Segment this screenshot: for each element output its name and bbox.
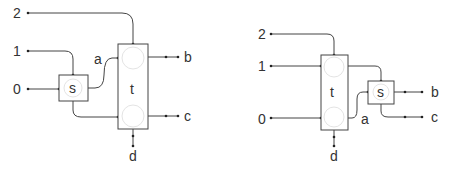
wire-s-to-c — [381, 104, 422, 117]
node-s-label: s — [69, 80, 76, 96]
port-dot — [404, 91, 407, 94]
port-dot — [404, 116, 407, 119]
input-label-1: 1 — [13, 43, 21, 59]
wire-label-a: a — [94, 51, 102, 67]
left-diagram: 2 1 0 s a t b — [13, 5, 192, 164]
output-label-b: b — [431, 84, 439, 100]
output-label-c: c — [184, 108, 191, 124]
node-t-label: t — [330, 84, 334, 100]
port-dot — [27, 50, 30, 53]
wire-t-to-s — [348, 66, 381, 81]
output-label-c: c — [431, 109, 438, 125]
port-dot — [270, 117, 273, 120]
wire-1-to-s — [28, 51, 73, 75]
port-dot — [27, 12, 30, 15]
wire-label-a: a — [361, 111, 369, 127]
wire-2-to-t — [28, 13, 133, 44]
input-label-0: 0 — [13, 81, 21, 97]
port-dot — [333, 145, 336, 148]
input-label-0: 0 — [258, 111, 266, 127]
port-dot — [270, 65, 273, 68]
wire-s-to-t-a — [88, 58, 118, 88]
input-label-2: 2 — [13, 5, 21, 21]
node-s-label: s — [377, 84, 384, 100]
port-dot — [333, 136, 336, 139]
port-dot — [132, 145, 135, 148]
right-diagram: 2 1 0 t a s b — [258, 26, 439, 164]
port-dot — [421, 116, 424, 119]
output-label-d: d — [330, 148, 338, 164]
port-dot — [177, 115, 180, 118]
diagram-canvas: 2 1 0 s a t b — [0, 0, 454, 170]
port-dot — [132, 135, 135, 138]
port-dot — [27, 88, 30, 91]
port-dot — [270, 33, 273, 36]
port-dot — [165, 56, 168, 59]
port-dot — [177, 56, 180, 59]
output-label-b: b — [184, 49, 192, 65]
port-dot — [421, 91, 424, 94]
input-label-2: 2 — [258, 26, 266, 42]
wire-2-to-t — [271, 34, 334, 55]
port-dot — [165, 115, 168, 118]
output-label-d: d — [129, 148, 137, 164]
wire-s-to-t — [73, 101, 118, 117]
node-t-label: t — [130, 81, 134, 97]
input-label-1: 1 — [258, 58, 266, 74]
